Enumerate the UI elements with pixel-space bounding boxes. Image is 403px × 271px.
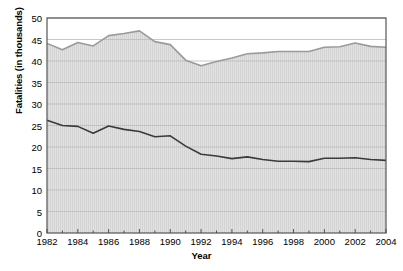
plot-area [0,0,403,271]
fatalities-area-chart: Fatalities (in thousands) Year 051015202… [0,0,403,271]
